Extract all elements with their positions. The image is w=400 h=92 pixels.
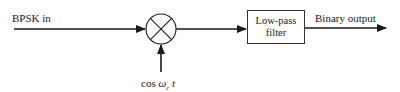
filter-label-line1: Low-pass <box>256 15 297 27</box>
low-pass-filter-block: Low-pass filter <box>247 10 305 44</box>
mixer-icon <box>146 14 176 44</box>
carrier-prefix: cos <box>141 77 158 89</box>
carrier-suffix: t <box>169 77 175 89</box>
carrier-label: cos ωc t <box>141 77 175 92</box>
input-label: BPSK in <box>12 12 51 24</box>
output-label: Binary output <box>315 12 376 24</box>
filter-label-line2: filter <box>266 27 286 39</box>
block-diagram: BPSK in Low-pass filter Binary output co… <box>0 0 400 92</box>
